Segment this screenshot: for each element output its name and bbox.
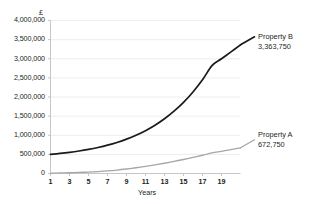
y-axis-tick-label: 1,000,000 [0, 131, 45, 139]
x-axis-tick-label: 15 [174, 178, 194, 186]
x-axis-tick-label: 1 [41, 178, 61, 186]
leader-line-property-b [241, 37, 255, 45]
y-axis-tick-label: 1,500,000 [0, 112, 45, 120]
series-annotation-property-b: Property B 3,363,750 [258, 32, 293, 51]
y-axis-tick-label: 2,500,000 [0, 74, 45, 82]
y-axis-tick-label: 0 [0, 169, 45, 177]
plot-area [0, 0, 311, 204]
series-line-property-b [51, 45, 241, 155]
x-axis-tick-label: 3 [60, 178, 80, 186]
x-axis-tick-label: 9 [117, 178, 137, 186]
y-axis-tick-label: 500,000 [0, 150, 45, 158]
series-annotation-property-a: Property A 672,750 [258, 130, 293, 149]
series-value-property-b: 3,363,750 [258, 42, 293, 52]
line-chart: £ 0500,0001,000,0001,500,0002,000,0002,5… [0, 0, 311, 204]
x-axis-tick-label: 11 [136, 178, 156, 186]
series-name-property-b: Property B [258, 32, 293, 42]
y-axis-tick-label: 3,500,000 [0, 35, 45, 43]
x-axis-title: Years [138, 189, 156, 197]
x-axis-tick-label: 7 [98, 178, 118, 186]
series-value-property-a: 672,750 [258, 140, 293, 150]
x-axis-tick-label: 5 [79, 178, 99, 186]
y-axis-tick-label: 3,000,000 [0, 55, 45, 63]
y-axis-tick-label: 2,000,000 [0, 93, 45, 101]
x-axis-tick-label: 17 [193, 178, 213, 186]
series-name-property-a: Property A [258, 130, 293, 140]
x-axis-tick-label: 13 [155, 178, 175, 186]
y-axis-tick-label: 4,000,000 [0, 16, 45, 24]
x-axis-tick-label: 19 [212, 178, 232, 186]
leader-line-property-a [241, 140, 255, 148]
